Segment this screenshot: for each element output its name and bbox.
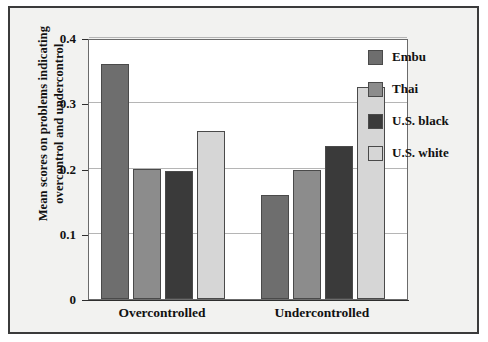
bar-undercontrolled-embu bbox=[261, 195, 289, 299]
legend-label: Embu bbox=[392, 49, 426, 65]
gridline-0.4 bbox=[89, 37, 407, 38]
legend-swatch-icon bbox=[368, 114, 383, 129]
legend-label: U.S. white bbox=[392, 145, 449, 161]
x-axis-label-overcontrolled: Overcontrolled bbox=[100, 305, 224, 321]
bar-overcontrolled-thai bbox=[133, 169, 161, 300]
figure: Mean scores on problems indicating overc… bbox=[0, 0, 488, 342]
plot-area bbox=[88, 39, 408, 300]
legend-label: Thai bbox=[392, 81, 418, 97]
bar-undercontrolled-thai bbox=[293, 170, 321, 299]
legend-item-u-s-black: U.S. black bbox=[362, 110, 474, 142]
bar-overcontrolled-u-s-black bbox=[165, 171, 193, 299]
y-tick-label-0.3: 0.3 bbox=[30, 97, 76, 110]
bar-overcontrolled-embu bbox=[101, 64, 129, 299]
bar-overcontrolled-u-s-white bbox=[197, 131, 225, 299]
legend-item-u-s-white: U.S. white bbox=[362, 142, 474, 174]
y-tick-label-0.2: 0.2 bbox=[30, 163, 76, 176]
legend-label: U.S. black bbox=[392, 113, 449, 129]
x-axis-label-undercontrolled: Undercontrolled bbox=[260, 305, 384, 321]
legend-swatch-icon bbox=[368, 82, 383, 97]
y-tick-label-0.4: 0.4 bbox=[30, 32, 76, 45]
figure-frame: Mean scores on problems indicating overc… bbox=[8, 6, 479, 334]
y-tick-label-0: 0 bbox=[30, 293, 76, 306]
legend-item-embu: Embu bbox=[362, 46, 474, 78]
x-axis-line bbox=[88, 300, 409, 301]
bar-undercontrolled-u-s-black bbox=[325, 146, 353, 299]
legend: EmbuThaiU.S. blackU.S. white bbox=[362, 46, 474, 174]
y-tick-label-0.1: 0.1 bbox=[30, 228, 76, 241]
legend-swatch-icon bbox=[368, 146, 383, 161]
legend-swatch-icon bbox=[368, 50, 383, 65]
legend-item-thai: Thai bbox=[362, 78, 474, 110]
